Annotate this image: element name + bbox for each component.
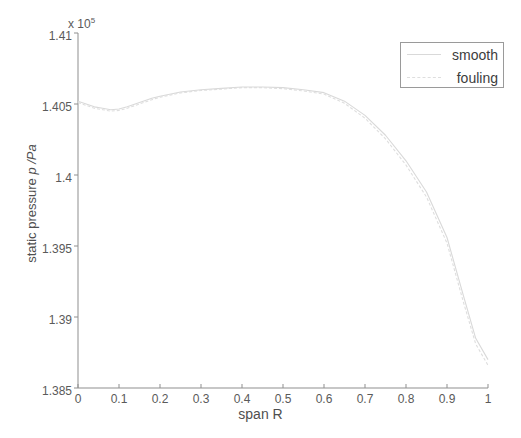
- data-line-smooth: [78, 87, 488, 360]
- legend-label-fouling: fouling: [441, 70, 505, 86]
- data-series-layer: [78, 87, 488, 365]
- legend-label-smooth: smooth: [441, 47, 505, 63]
- legend-line-sample-smooth: [407, 54, 441, 55]
- figure-canvas: x 105 static pressure p /Pa span R 1.385…: [0, 0, 521, 438]
- x-axis-ticks: [78, 384, 488, 388]
- legend-box: smooth fouling: [400, 42, 504, 88]
- legend-line-sample-fouling: [407, 77, 441, 78]
- legend-entry-fouling: fouling: [401, 66, 505, 89]
- data-line-fouling: [78, 88, 488, 366]
- y-axis-ticks: [74, 33, 78, 388]
- legend-entry-smooth: smooth: [401, 43, 505, 66]
